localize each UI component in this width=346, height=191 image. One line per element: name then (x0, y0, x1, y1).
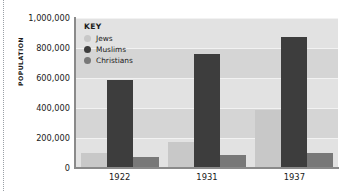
bar-muslims-1922 (107, 80, 133, 169)
y-tick-label: 1,000,000 (14, 13, 70, 23)
y-axis-ticks: 1,000,000800,000600,000400,000200,0000 (14, 0, 70, 191)
bar-jews-1922 (81, 153, 107, 168)
legend-swatch-icon (84, 35, 91, 42)
bar-christians-1937 (307, 153, 333, 168)
bar-jews-1937 (255, 110, 281, 169)
bar-jews-1931 (168, 142, 194, 168)
legend-swatch-icon (84, 46, 91, 53)
x-tick-label-1922: 1922 (90, 172, 150, 182)
legend-swatch-icon (84, 57, 91, 64)
bar-muslims-1931 (194, 54, 220, 168)
chart-legend: KEY JewsMuslimsChristians (84, 22, 133, 66)
y-tick-label: 0 (14, 163, 70, 173)
bar-christians-1931 (220, 155, 246, 169)
x-tick-label-1931: 1931 (177, 172, 237, 182)
y-tick-label: 400,000 (14, 103, 70, 113)
y-tick-label: 600,000 (14, 73, 70, 83)
x-axis-spine (74, 167, 339, 169)
y-tick-label: 800,000 (14, 43, 70, 53)
gridline (76, 18, 338, 19)
legend-label: Christians (96, 56, 133, 65)
legend-entry-christians: Christians (84, 55, 133, 66)
x-tick-label-1937: 1937 (264, 172, 324, 182)
legend-label: Jews (96, 34, 113, 43)
legend-title: KEY (84, 22, 133, 31)
legend-label: Muslims (96, 45, 126, 54)
legend-entry-jews: Jews (84, 33, 133, 44)
y-axis-spine (74, 17, 76, 169)
legend-entry-list: JewsMuslimsChristians (84, 33, 133, 66)
bar-muslims-1937 (281, 37, 307, 168)
y-tick-label: 200,000 (14, 133, 70, 143)
bar-chart-figure: POPULATION 1,000,000800,000600,000400,00… (0, 0, 346, 191)
legend-entry-muslims: Muslims (84, 44, 133, 55)
